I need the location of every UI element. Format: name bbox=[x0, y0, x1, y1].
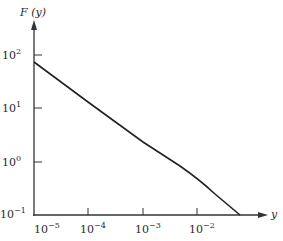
plot-area bbox=[0, 0, 283, 241]
y-axis-arrow-icon bbox=[31, 20, 37, 30]
y-tick-label: 101 bbox=[2, 101, 21, 114]
x-tick-label: 10−2 bbox=[189, 222, 215, 235]
x-tick-label: 10−3 bbox=[135, 222, 161, 235]
y-axis-title: F (y) bbox=[20, 6, 46, 19]
x-tick-label: 10−5 bbox=[34, 222, 60, 235]
y-tick-label: 100 bbox=[2, 155, 21, 168]
y-tick-label: 10−1 bbox=[0, 207, 26, 220]
data-curve bbox=[34, 62, 240, 215]
y-tick-label: 102 bbox=[2, 48, 21, 61]
x-axis-title: y bbox=[271, 208, 277, 221]
x-tick-label: 10−4 bbox=[80, 222, 106, 235]
x-axis-arrow-icon bbox=[258, 212, 268, 218]
